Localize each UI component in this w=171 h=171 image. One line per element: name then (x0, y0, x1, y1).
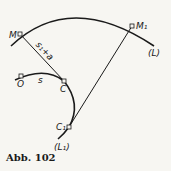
label-O: O (17, 79, 24, 89)
point-C1 (67, 125, 71, 129)
label-segment-MC: s₁+a (34, 40, 56, 62)
label-M1: M₁ (136, 21, 148, 31)
label-curve-L: (L) (148, 48, 160, 58)
point-M1 (130, 24, 134, 28)
point-O (19, 74, 23, 78)
label-M: M (9, 30, 17, 40)
point-C (62, 79, 66, 83)
point-M (18, 32, 22, 36)
label-C: C (60, 84, 67, 94)
segment-M1C1 (69, 26, 132, 127)
diagram-canvas: M M₁ O C C₁ s₁+a s (L) (L₁) Abb. 102 (0, 0, 171, 171)
curve-L (11, 18, 154, 46)
label-curve-L1: (L₁) (54, 142, 70, 152)
figure-caption: Abb. 102 (5, 152, 56, 163)
label-C1: C₁ (56, 122, 66, 132)
label-segment-OC: s (38, 75, 43, 85)
